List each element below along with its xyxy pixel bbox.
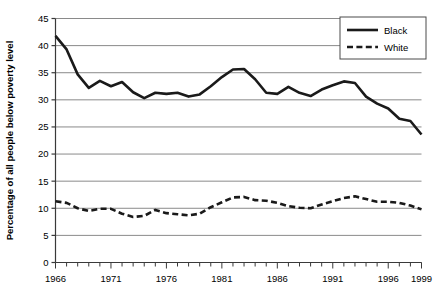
y-axis-label: Percentage of all people below poverty l… <box>4 41 15 241</box>
x-tick-label: 1976 <box>156 273 177 284</box>
x-tick-label: 1991 <box>322 273 343 284</box>
y-tick-label: 10 <box>38 203 49 214</box>
x-tick-label: 1966 <box>45 273 66 284</box>
y-tick-label: 15 <box>38 176 49 187</box>
chart-legend: BlackWhite <box>340 17 426 59</box>
y-tick-label: 25 <box>38 121 49 132</box>
x-tick-label: 1996 <box>378 273 399 284</box>
chart-canvas: 051015202530354045 196619711976198119861… <box>0 0 433 293</box>
y-tick-label: 30 <box>38 94 49 105</box>
x-tick-label: 1971 <box>100 273 121 284</box>
x-tick-labels-group: 19661971197619811986199119961999 <box>45 273 432 284</box>
x-minor-ticks-group <box>56 263 422 269</box>
legend-label-black: Black <box>384 25 407 36</box>
y-tick-label: 5 <box>43 230 48 241</box>
poverty-line-chart: 051015202530354045 196619711976198119861… <box>0 0 433 293</box>
legend-box <box>340 17 426 59</box>
x-tick-label: 1986 <box>267 273 288 284</box>
y-tick-label: 0 <box>43 257 48 268</box>
y-tick-label: 35 <box>38 67 49 78</box>
legend-label-white: White <box>384 42 408 53</box>
series-line-white <box>56 196 422 217</box>
y-tick-label: 40 <box>38 40 49 51</box>
y-axis-label-text: Percentage of all people below poverty l… <box>4 41 15 241</box>
y-tick-label: 20 <box>38 148 49 159</box>
x-tick-label: 1981 <box>211 273 232 284</box>
data-series-group <box>56 36 422 217</box>
y-tick-labels-group: 051015202530354045 <box>38 13 56 268</box>
y-tick-label: 45 <box>38 13 49 24</box>
x-tick-label: 1999 <box>411 273 432 284</box>
